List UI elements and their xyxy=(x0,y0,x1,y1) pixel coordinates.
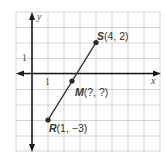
point-r-label: R(1, −3) xyxy=(49,122,87,134)
x-axis xyxy=(16,71,161,77)
y-axis xyxy=(29,12,35,152)
y-axis-label: y xyxy=(36,11,42,22)
point-m xyxy=(69,78,74,83)
point-s-label: S(4, 2) xyxy=(97,30,129,42)
y-tick-label: 1 xyxy=(22,53,27,63)
point-m-label: M(?, ?) xyxy=(75,86,108,98)
coordinate-plane: y x 1 1 S(4, 2) M(?, ?) R(1, −3) xyxy=(0,0,165,159)
y-axis-up-arrow-icon xyxy=(29,12,35,20)
grid xyxy=(16,12,160,151)
x-axis-left-arrow-icon xyxy=(16,71,24,77)
x-tick-label: 1 xyxy=(45,77,50,87)
x-axis-label: x xyxy=(150,75,156,86)
